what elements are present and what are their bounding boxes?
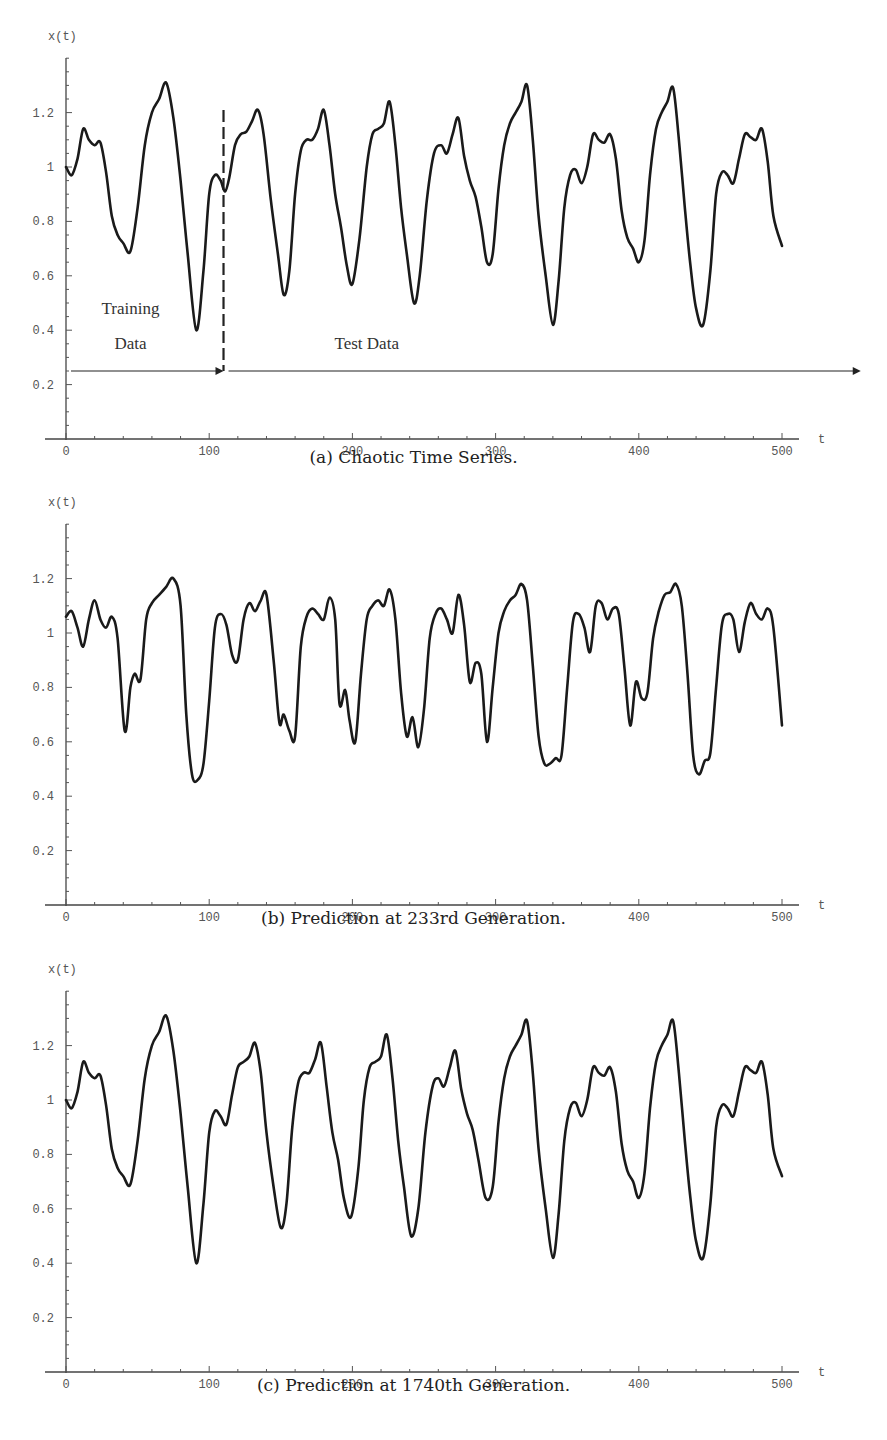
y-tick-label: 0.2 xyxy=(32,1312,54,1326)
annotation-label: Training xyxy=(101,299,159,318)
y-tick-label: 1.2 xyxy=(32,1040,54,1054)
y-tick-label: 0.2 xyxy=(32,379,54,393)
series-line xyxy=(66,1015,782,1263)
axes: 0.20.40.60.811.20100200300400500x(t)t xyxy=(32,30,825,459)
chart-b-caption: (b) Prediction at 233rd Generation. xyxy=(0,908,887,928)
y-tick-label: 0.6 xyxy=(32,736,54,750)
arrowhead-icon xyxy=(216,367,224,375)
axes: 0.20.40.60.811.20100200300400500x(t)t xyxy=(32,963,825,1392)
annotation-label: Data xyxy=(114,334,147,353)
series-line xyxy=(66,578,782,782)
y-tick-label: 1 xyxy=(47,161,54,175)
chart-b-svg: 0.20.40.60.811.20100200300400500x(t)t xyxy=(0,466,887,926)
y-tick-label: 1.2 xyxy=(32,573,54,587)
chart-a-svg: 0.20.40.60.811.20100200300400500x(t)tTra… xyxy=(0,0,887,460)
y-tick-label: 1.2 xyxy=(32,107,54,121)
y-tick-label: 0.6 xyxy=(32,1203,54,1217)
caption-text: (c) Prediction at 1740th Generation. xyxy=(257,1375,570,1395)
chart-c-caption: (c) Prediction at 1740th Generation. xyxy=(0,1375,887,1395)
y-tick-label: 0.6 xyxy=(32,270,54,284)
y-tick-label: 0.8 xyxy=(32,1148,54,1162)
y-tick-label: 0.4 xyxy=(32,324,54,338)
y-tick-label: 0.8 xyxy=(32,215,54,229)
chart-panel-a: 0.20.40.60.811.20100200300400500x(t)tTra… xyxy=(0,0,887,480)
y-tick-label: 0.4 xyxy=(32,1257,54,1271)
chart-c-svg: 0.20.40.60.811.20100200300400500x(t)t xyxy=(0,933,887,1393)
series-line xyxy=(66,82,782,330)
y-axis-title: x(t) xyxy=(48,496,77,510)
x-axis-title: t xyxy=(818,433,825,447)
y-tick-label: 0.8 xyxy=(32,681,54,695)
caption-text: (b) Prediction at 233rd Generation. xyxy=(261,908,566,928)
chart-a-caption: (a) Chaotic Time Series. xyxy=(0,447,887,467)
chart-panel-c: 0.20.40.60.811.20100200300400500x(t)t (c… xyxy=(0,933,887,1403)
axes: 0.20.40.60.811.20100200300400500x(t)t xyxy=(32,496,825,925)
y-axis-title: x(t) xyxy=(48,30,77,44)
y-tick-label: 1 xyxy=(47,627,54,641)
y-tick-label: 1 xyxy=(47,1094,54,1108)
annotation-label: Test Data xyxy=(335,334,400,353)
y-axis-title: x(t) xyxy=(48,963,77,977)
caption-text: (a) Chaotic Time Series. xyxy=(309,447,517,467)
y-tick-label: 0.2 xyxy=(32,845,54,859)
y-tick-label: 0.4 xyxy=(32,790,54,804)
chart-panel-b: 0.20.40.60.811.20100200300400500x(t)t (b… xyxy=(0,466,887,936)
arrowhead-icon xyxy=(853,367,861,375)
